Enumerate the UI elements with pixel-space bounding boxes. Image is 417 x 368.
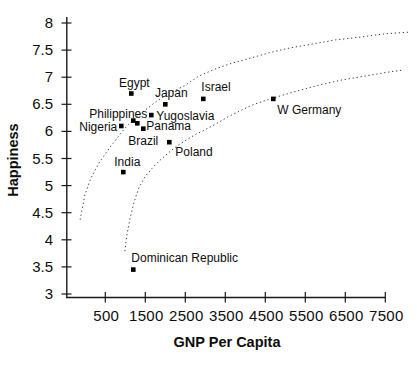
point-label-egypt: Egypt [119,76,150,90]
point-label-w-germany: W Germany [277,103,341,117]
y-tick-label: 3.5 [32,258,53,275]
data-point-dominican-republic [131,267,136,272]
x-tick-label: 3500 [209,307,244,324]
data-point-yugoslavia [149,113,154,118]
y-tick-label: 7.5 [32,41,53,58]
scatter-chart-svg: 33.544.555.566.577.585001500250035004500… [0,0,417,368]
data-point-nigeria [119,124,124,129]
upper-band-curve [80,32,408,220]
data-point-israel [201,97,206,102]
y-tick-label: 8 [45,14,53,31]
x-tick-label: 5500 [289,307,324,324]
y-tick-label: 5.5 [32,150,53,167]
data-point-poland [167,140,172,145]
y-tick-label: 7 [45,68,53,85]
x-tick-label: 1500 [129,307,164,324]
x-axis-title: GNP Per Capita [174,334,282,350]
point-label-panama: Panama [146,119,191,133]
point-label-philippines: Philippines [89,107,147,121]
x-tick-label: 500 [93,307,119,324]
point-label-israel: Israel [201,80,230,94]
point-label-japan: Japan [155,86,188,100]
chart-layer: 33.544.555.566.577.585001500250035004500… [32,14,408,324]
data-point-india [121,170,126,175]
point-label-dominican-republic: Dominican Republic [131,251,238,265]
y-tick-label: 5 [45,177,53,194]
happiness-gnp-figure: 33.544.555.566.577.585001500250035004500… [0,0,417,368]
data-point-w-germany [271,97,276,102]
point-label-brazil: Brazil [128,134,158,148]
x-tick-label: 7500 [369,307,404,324]
data-point-japan [163,102,168,107]
x-tick-label: 6500 [329,307,364,324]
y-tick-label: 3 [45,285,53,302]
x-tick-label: 2500 [169,307,204,324]
data-point-egypt [129,91,134,96]
y-tick-label: 4.5 [32,204,53,221]
point-label-india: India [114,155,140,169]
y-tick-label: 6.5 [32,95,53,112]
y-axis-title: Happiness [5,123,21,196]
point-label-nigeria: Nigeria [79,120,117,134]
data-point-panama [135,121,140,126]
y-tick-label: 6 [45,122,53,139]
data-point-brazil [141,126,146,131]
point-label-poland: Poland [175,145,212,159]
y-tick-label: 4 [45,231,53,248]
x-tick-label: 4500 [249,307,284,324]
